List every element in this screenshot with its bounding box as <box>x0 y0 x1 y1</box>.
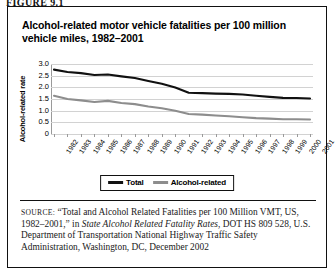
legend-item-alcohol-related: Alcohol-related <box>153 178 226 187</box>
x-tick-label: 1990 <box>172 138 187 155</box>
x-tick-label: 1996 <box>253 138 268 155</box>
x-tick-mark <box>121 134 122 137</box>
x-tick-mark <box>229 134 230 137</box>
legend-label-alcohol-related: Alcohol-related <box>171 178 226 187</box>
figure-title: Alcohol-related motor vehicle fatalities… <box>22 19 314 45</box>
legend-swatch-total <box>108 181 123 184</box>
source-divider <box>20 200 316 201</box>
x-tick-mark <box>283 134 284 137</box>
y-tick-label: 1.0 <box>21 107 49 115</box>
x-tick-mark <box>94 134 95 137</box>
x-tick-label: 1997 <box>267 138 282 155</box>
x-tick-mark <box>270 134 271 137</box>
x-tick-label: 1993 <box>213 138 228 155</box>
x-tick-label: 1992 <box>199 138 214 155</box>
x-tick-mark <box>148 134 149 137</box>
x-tick-label: 2001 <box>321 138 335 155</box>
x-tick-label: 1998 <box>280 138 295 155</box>
legend-swatch-alcohol-related <box>153 181 168 184</box>
series-line-alcohol-related <box>54 96 310 120</box>
x-tick-mark <box>202 134 203 137</box>
figure-box: Alcohol-related motor vehicle fatalities… <box>7 6 327 268</box>
series-line-total <box>54 70 310 99</box>
x-tick-mark <box>175 134 176 137</box>
x-tick-label: 1999 <box>294 138 309 155</box>
x-tick-mark <box>135 134 136 137</box>
x-tick-label: 1987 <box>132 138 147 155</box>
x-tick-label: 1982 <box>65 138 80 155</box>
x-tick-label: 2000 <box>307 138 322 155</box>
y-tick-label: 0.5 <box>21 118 49 126</box>
x-tick-mark <box>256 134 257 137</box>
legend-item-total: Total <box>108 178 144 187</box>
x-tick-label: 1985 <box>105 138 120 155</box>
y-tick-label: 2.0 <box>21 83 49 91</box>
figure-screenshot: FIGURE 9.1 Alcohol-related motor vehicle… <box>0 0 335 276</box>
y-tick-label: 3.0 <box>21 60 49 68</box>
source-note: SOURCE: “Total and Alcohol Related Fatal… <box>21 207 317 253</box>
x-tick-mark <box>54 134 55 137</box>
x-tick-label: 1991 <box>186 138 201 155</box>
x-tick-label: 1989 <box>159 138 174 155</box>
x-tick-label: 1986 <box>119 138 134 155</box>
y-axis-ticks: 3.02.52.01.51.00.50 <box>20 62 49 134</box>
series-lines <box>51 64 313 136</box>
x-tick-label: 1995 <box>240 138 255 155</box>
x-tick-mark <box>81 134 82 137</box>
chart-legend: Total Alcohol-related <box>100 175 234 191</box>
x-tick-label: 1994 <box>226 138 241 155</box>
x-tick-mark <box>216 134 217 137</box>
x-tick-mark <box>243 134 244 137</box>
x-axis-ticks: 1982198319841985198619871988198919901991… <box>51 134 313 174</box>
x-tick-mark <box>108 134 109 137</box>
x-tick-mark <box>67 134 68 137</box>
legend-label-total: Total <box>126 178 144 187</box>
source-publication-title: State Alcohol Related Fatality Rates <box>82 219 218 229</box>
y-tick-label: 2.5 <box>21 72 49 80</box>
source-prefix: SOURCE: <box>21 208 55 217</box>
y-tick-label: 0 <box>21 130 49 138</box>
x-tick-label: 1983 <box>78 138 93 155</box>
x-tick-label: 1988 <box>145 138 160 155</box>
y-tick-label: 1.5 <box>21 95 49 103</box>
x-tick-mark <box>297 134 298 137</box>
x-tick-mark <box>310 134 311 137</box>
x-tick-mark <box>189 134 190 137</box>
x-tick-mark <box>162 134 163 137</box>
x-tick-label: 1984 <box>92 138 107 155</box>
